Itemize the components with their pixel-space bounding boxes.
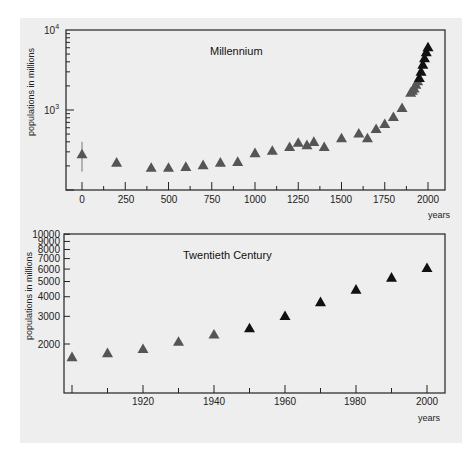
data-point-triangle	[336, 133, 347, 143]
population-charts: Millennium populations in millions 104 1…	[0, 0, 475, 451]
millennium-chart: Millennium populations in millions 104 1…	[26, 23, 451, 220]
twentieth-xtick-label: 1940	[203, 396, 226, 407]
twentieth-century-x-axis-title: years	[418, 413, 441, 423]
millennium-ytick-10e3: 103	[44, 103, 59, 116]
millennium-y-ticks	[66, 34, 74, 190]
data-point-triangle	[397, 102, 408, 112]
twentieth-century-y-ticks	[64, 234, 70, 344]
data-point-triangle	[77, 149, 88, 159]
data-point-triangle	[232, 156, 243, 166]
millennium-x-ticks	[82, 182, 428, 190]
millennium-data-points	[77, 42, 434, 172]
data-point-triangle	[423, 42, 434, 52]
twentieth-ytick-label: 2000	[38, 339, 61, 350]
data-point-triangle	[319, 141, 330, 151]
twentieth-century-data-points	[67, 262, 433, 361]
millennium-x-axis-title: years	[428, 210, 451, 220]
millennium-x-tick-labels: 0 250 500 750 1000 1250 1500 1750 2000	[79, 194, 439, 205]
millennium-xtick-label: 1750	[373, 194, 396, 205]
millennium-xtick-label: 0	[79, 194, 85, 205]
data-point-triangle	[422, 262, 433, 272]
data-point-triangle	[388, 111, 399, 121]
twentieth-ytick-label: 3000	[38, 311, 61, 322]
data-point-triangle	[198, 160, 209, 170]
data-point-triangle	[315, 297, 326, 307]
twentieth-ytick-label: 4000	[38, 291, 61, 302]
twentieth-century-title: Twentieth Century	[183, 249, 272, 261]
data-point-triangle	[267, 145, 278, 155]
data-point-triangle	[280, 310, 291, 320]
millennium-xtick-label: 1250	[287, 194, 310, 205]
twentieth-ytick-label: 5000	[38, 276, 61, 287]
data-point-triangle	[209, 329, 220, 339]
twentieth-century-chart: Twentieth Century populations in million…	[24, 229, 445, 423]
data-point-triangle	[138, 343, 149, 353]
twentieth-century-x-ticks	[72, 385, 427, 393]
data-point-triangle	[250, 148, 261, 158]
twentieth-ytick-label: 6000	[38, 264, 61, 275]
data-point-triangle	[386, 272, 397, 282]
millennium-xtick-label: 1500	[330, 194, 353, 205]
twentieth-century-x-tick-labels: 1920 1940 1960 1980 2000	[132, 396, 439, 407]
millennium-xtick-label: 2000	[417, 194, 440, 205]
twentieth-century-y-tick-labels: 2000300040005000600070008000900010000	[32, 229, 60, 350]
twentieth-century-y-axis-title: populations in millions	[24, 251, 34, 340]
data-point-triangle	[215, 157, 226, 167]
millennium-xtick-label: 250	[118, 194, 135, 205]
data-point-triangle	[67, 352, 78, 362]
millennium-xtick-label: 750	[204, 194, 221, 205]
millennium-y-axis-title: populations in millions	[26, 47, 36, 136]
millennium-title: Millennium	[210, 45, 263, 57]
data-point-triangle	[308, 136, 319, 146]
data-point-triangle	[173, 336, 184, 346]
data-point-triangle	[180, 161, 191, 171]
twentieth-ytick-label: 10000	[32, 229, 60, 240]
data-point-triangle	[146, 162, 157, 172]
twentieth-xtick-label: 1960	[274, 396, 297, 407]
data-point-triangle	[353, 128, 364, 138]
millennium-ytick-10e4: 104	[44, 23, 59, 36]
data-point-triangle	[244, 323, 255, 333]
millennium-xtick-label: 500	[161, 194, 178, 205]
data-point-triangle	[351, 284, 362, 294]
data-point-triangle	[111, 157, 122, 167]
twentieth-xtick-label: 1980	[344, 396, 367, 407]
data-point-triangle	[163, 162, 174, 172]
data-point-triangle	[371, 123, 382, 133]
data-point-triangle	[293, 137, 304, 147]
twentieth-xtick-label: 1920	[132, 396, 155, 407]
data-point-triangle	[102, 348, 113, 358]
millennium-xtick-label: 1000	[244, 194, 267, 205]
twentieth-xtick-label: 2000	[416, 396, 439, 407]
